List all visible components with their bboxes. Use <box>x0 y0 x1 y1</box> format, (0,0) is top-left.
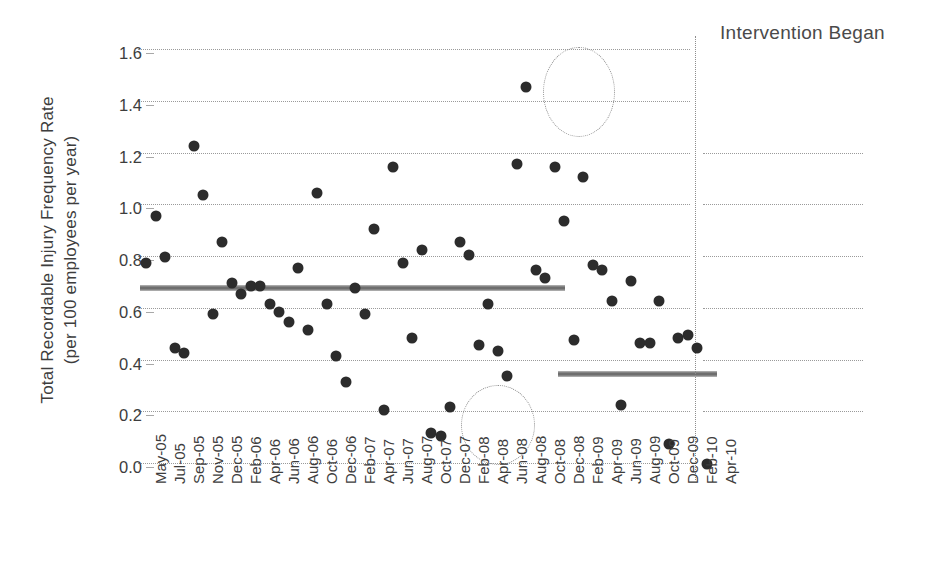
data-point[interactable] <box>549 161 560 172</box>
y-axis-tick-mark <box>146 157 154 158</box>
data-point[interactable] <box>207 309 218 320</box>
gridline <box>703 204 863 205</box>
x-axis-tick-label: Aug-09 <box>646 436 663 484</box>
data-point[interactable] <box>606 296 617 307</box>
gridline <box>138 49 690 50</box>
x-axis-tick-label: Sep-05 <box>190 436 207 484</box>
y-axis-tick-label: 0.8 <box>104 251 142 270</box>
data-point[interactable] <box>378 405 389 416</box>
x-axis-tick-label: Jun-09 <box>627 438 644 484</box>
data-point[interactable] <box>454 236 465 247</box>
gridline <box>703 308 863 309</box>
data-point[interactable] <box>492 345 503 356</box>
x-axis-tick-label: Oct-09 <box>665 439 682 484</box>
data-point[interactable] <box>188 141 199 152</box>
y-axis-title-line1: Total Recordable Injury Frequency Rate <box>38 96 57 403</box>
x-axis-tick-label: Dec-05 <box>228 436 245 484</box>
y-axis-tick-mark <box>146 364 154 365</box>
data-point[interactable] <box>226 278 237 289</box>
x-axis-tick-label: Feb-10 <box>703 436 720 484</box>
data-point[interactable] <box>473 340 484 351</box>
data-point[interactable] <box>141 257 152 268</box>
y-axis-tick-mark <box>146 312 154 313</box>
y-axis-title-line2: (per 100 employees per year) <box>60 96 83 403</box>
x-axis-tick-label: Oct-06 <box>323 439 340 484</box>
x-axis-tick-label: Jun-07 <box>399 438 416 484</box>
data-point[interactable] <box>559 216 570 227</box>
post-intervention-mean <box>558 371 717 376</box>
data-point[interactable] <box>369 223 380 234</box>
gridline <box>138 308 690 309</box>
data-point[interactable] <box>445 402 456 413</box>
data-point[interactable] <box>407 332 418 343</box>
x-axis-tick-label: Aug-07 <box>418 436 435 484</box>
gridline <box>703 411 863 412</box>
x-axis-tick-label: Jun-06 <box>285 438 302 484</box>
y-axis-tick-mark <box>146 208 154 209</box>
x-axis-tick-label: Apr-07 <box>380 439 397 484</box>
data-point[interactable] <box>568 335 579 346</box>
x-axis-tick-label: Apr-10 <box>722 439 739 484</box>
data-point[interactable] <box>416 244 427 255</box>
gridline <box>703 256 863 257</box>
data-point[interactable] <box>255 280 266 291</box>
gridline <box>138 256 690 257</box>
gridline <box>138 411 690 412</box>
x-axis-tick-label: May-05 <box>152 434 169 484</box>
data-point[interactable] <box>283 317 294 328</box>
data-point[interactable] <box>625 275 636 286</box>
y-axis-tick-label: 0.6 <box>104 302 142 321</box>
data-point[interactable] <box>654 296 665 307</box>
intervention-began-label: Intervention Began <box>720 22 885 44</box>
y-axis-tick-label: 0.4 <box>104 354 142 373</box>
y-axis-tick-label: 1.6 <box>104 44 142 63</box>
data-point[interactable] <box>682 330 693 341</box>
data-point[interactable] <box>511 159 522 170</box>
x-axis-tick-label: Oct-07 <box>437 439 454 484</box>
data-point[interactable] <box>616 399 627 410</box>
data-point[interactable] <box>644 337 655 348</box>
data-point[interactable] <box>521 81 532 92</box>
y-axis-title: Total Recordable Injury Frequency Rate (… <box>14 0 106 500</box>
data-point[interactable] <box>388 161 399 172</box>
y-axis-tick-mark <box>146 105 154 106</box>
data-point[interactable] <box>150 211 161 222</box>
y-axis-tick-label: 1.4 <box>104 95 142 114</box>
x-axis-tick-label: Feb-09 <box>589 436 606 484</box>
x-axis-tick-label: Oct-08 <box>551 439 568 484</box>
data-point[interactable] <box>302 324 313 335</box>
y-axis-tick-label: 0.0 <box>104 458 142 477</box>
x-axis-tick-label: Aug-08 <box>532 436 549 484</box>
data-point[interactable] <box>502 371 513 382</box>
y-axis-tick-mark <box>146 53 154 54</box>
data-point[interactable] <box>293 262 304 273</box>
data-point[interactable] <box>274 306 285 317</box>
data-point[interactable] <box>350 283 361 294</box>
y-axis-tick-label: 1.2 <box>104 147 142 166</box>
data-point[interactable] <box>236 288 247 299</box>
x-axis-tick-label: Apr-06 <box>266 439 283 484</box>
gridline <box>703 153 863 154</box>
data-point[interactable] <box>217 236 228 247</box>
data-point[interactable] <box>198 190 209 201</box>
data-point[interactable] <box>397 257 408 268</box>
data-point[interactable] <box>692 342 703 353</box>
intervention-vertical-line <box>695 36 696 480</box>
high-outlier-circle <box>543 47 615 137</box>
gridline <box>138 360 690 361</box>
data-point[interactable] <box>312 187 323 198</box>
data-point[interactable] <box>160 252 171 263</box>
data-point[interactable] <box>359 309 370 320</box>
data-point[interactable] <box>464 249 475 260</box>
x-axis-tick-label: Feb-07 <box>361 436 378 484</box>
data-point[interactable] <box>483 298 494 309</box>
data-point[interactable] <box>179 348 190 359</box>
data-point[interactable] <box>331 350 342 361</box>
data-point[interactable] <box>597 265 608 276</box>
data-point[interactable] <box>578 172 589 183</box>
data-point[interactable] <box>340 376 351 387</box>
x-axis-tick-label: Dec-08 <box>570 436 587 484</box>
data-point[interactable] <box>540 273 551 284</box>
x-axis-tick-label: Dec-09 <box>684 436 701 484</box>
data-point[interactable] <box>321 298 332 309</box>
